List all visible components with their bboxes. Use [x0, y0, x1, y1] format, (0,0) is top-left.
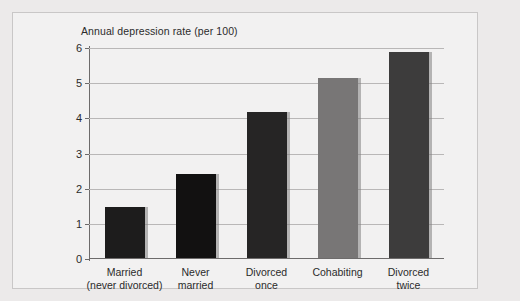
y-tick-mark — [85, 189, 89, 190]
bar — [105, 207, 145, 258]
y-tick-mark — [85, 224, 89, 225]
y-tick-label: 0 — [76, 254, 82, 265]
y-tick-label: 1 — [76, 218, 82, 229]
x-axis-line — [89, 258, 444, 259]
x-tick-label: Divorcedtwice — [388, 266, 429, 291]
y-tick-label: 5 — [76, 78, 82, 89]
bar — [247, 112, 287, 258]
y-tick-label: 3 — [76, 148, 82, 159]
x-tick-label: Divorcedonce — [246, 266, 287, 291]
bar — [176, 174, 216, 258]
plot-area: 0123456 Married(never divorced)Nevermarr… — [89, 48, 444, 259]
y-tick-mark — [85, 259, 89, 260]
y-tick-label: 6 — [76, 43, 82, 54]
x-tick-label: Cohabiting — [312, 266, 362, 279]
y-tick-mark — [85, 83, 89, 84]
bar — [389, 52, 429, 258]
y-tick-label: 2 — [76, 183, 82, 194]
y-tick-label: 4 — [76, 113, 82, 124]
y-tick-mark — [85, 118, 89, 119]
gridline — [89, 48, 444, 49]
bar — [318, 78, 358, 258]
chart-title: Annual depression rate (per 100) — [81, 25, 238, 37]
x-tick-label: Nevermarried — [178, 266, 214, 291]
y-tick-mark — [85, 154, 89, 155]
x-tick-label: Married(never divorced) — [87, 266, 163, 291]
y-tick-mark — [85, 48, 89, 49]
chart-figure: Annual depression rate (per 100) 0123456… — [12, 12, 478, 289]
